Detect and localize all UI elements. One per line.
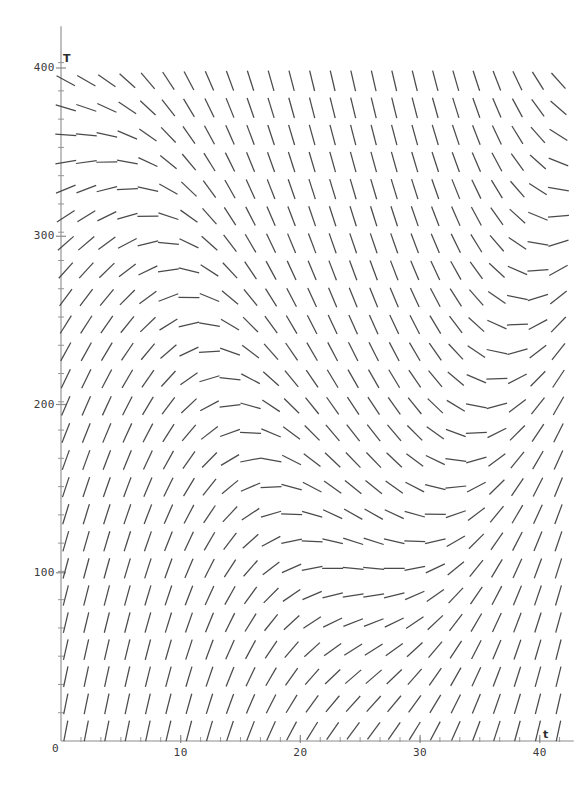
slope-segment [81,316,92,334]
slope-segment [118,131,137,139]
slope-segment [243,317,258,332]
slope-segment [534,532,542,551]
slope-segment [120,290,135,305]
slope-segment [488,454,505,467]
slope-segment [307,343,318,361]
slope-segment [387,669,402,684]
slope-segment [281,484,301,489]
slope-segment [412,98,417,118]
slope-segment [138,187,158,192]
slope-segment [472,152,480,171]
slope-segment [530,345,547,358]
x-tick-label: 20 [280,746,320,759]
slope-segment [426,455,445,464]
slope-segment [267,234,276,253]
direction-field-canvas [0,0,587,806]
slope-segment [97,104,116,113]
slope-segment [426,564,445,573]
slope-segment [450,289,461,307]
slope-segment [329,288,337,307]
slope-segment [364,538,384,544]
slope-segment [288,206,295,226]
slope-segment [306,370,318,387]
slope-segment [119,102,137,114]
slope-segment [101,316,113,333]
slope-segment [287,261,296,280]
slope-segment [164,478,173,497]
slope-segment [185,559,193,578]
x-tick-label: 30 [400,746,440,759]
slope-segment [406,617,423,629]
slope-segment [104,585,109,605]
slope-segment [366,670,382,684]
slope-segment [105,721,109,742]
slope-segment [449,588,463,603]
slope-segment [371,179,377,199]
slope-segment [204,126,214,144]
slope-segment [549,265,567,275]
slope-segment [493,71,501,91]
slope-segment [165,613,171,633]
slope-segment [550,291,566,304]
slope-segment [466,404,487,408]
slope-segment [445,486,466,488]
y-tick-label: 300 [13,229,55,242]
slope-segment [240,403,260,409]
slope-segment [124,504,131,524]
slope-segment [473,125,481,145]
slope-segment [432,206,439,226]
slope-segment [325,669,340,684]
slope-segment [487,403,507,408]
slope-segment [445,459,466,462]
slope-segment [346,696,360,712]
slope-segment [140,101,155,115]
slope-segment [323,618,342,627]
slope-segment [246,694,254,713]
slope-segment [224,560,235,578]
slope-segment [510,426,525,441]
slope-segment [509,400,526,413]
slope-segment [492,153,502,172]
slope-segment [490,506,503,522]
slope-segment [226,694,233,714]
slope-segment [183,126,195,143]
slope-segment [512,99,522,117]
slope-segment [410,288,419,307]
slope-segment [433,71,438,91]
slope-segment [351,71,356,91]
slope-segment [350,206,356,226]
slope-segment [386,481,403,493]
slope-segment [98,237,115,249]
slope-segment [343,567,364,569]
slope-segment [351,98,356,118]
slope-segment [125,639,130,659]
slope-segment [508,374,527,384]
slope-segment [451,668,461,686]
slope-segment [453,98,459,118]
slope-segment [556,721,560,742]
slope-segment [179,268,199,273]
slope-segment [549,158,569,166]
slope-segment [117,160,138,164]
slope-segment [514,640,521,660]
slope-segment [330,179,336,199]
slope-segment [141,344,154,360]
slope-segment [554,424,563,443]
slope-segment [489,263,504,277]
slope-segment [307,722,318,740]
slope-segment [125,585,131,605]
slope-segment [432,98,438,118]
slope-segment [102,369,112,388]
slope-segment [528,242,549,246]
slope-segment [488,428,507,437]
slope-segment [388,397,400,414]
slope-segment [288,234,296,253]
slope-segment [473,98,480,118]
slope-segment [490,235,504,251]
slope-segment [527,270,548,271]
slope-segment [347,722,360,739]
slope-segment [63,504,69,524]
slope-segment [310,71,315,91]
slope-segment [286,695,297,713]
slope-segment [326,696,339,712]
